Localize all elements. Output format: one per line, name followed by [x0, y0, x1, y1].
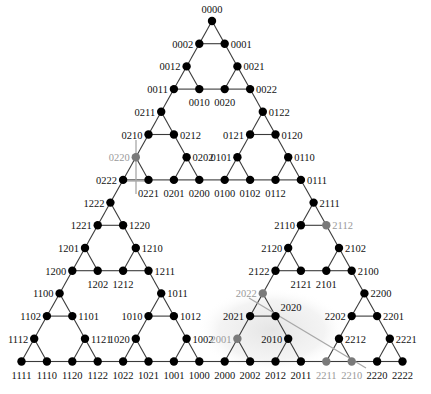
- graph-node-0210: [144, 130, 152, 138]
- graph-node-2121: [297, 267, 305, 275]
- graph-node-2022: [259, 289, 267, 297]
- graph-node-1022: [119, 357, 127, 365]
- node-label: 0101: [210, 152, 231, 163]
- node-label: 1022: [113, 370, 134, 381]
- graph-node-0100: [221, 176, 229, 184]
- node-label: 0002: [172, 39, 193, 50]
- node-label: 2121: [290, 279, 311, 290]
- graph-node-2112: [322, 221, 330, 229]
- graph-node-1112: [30, 335, 38, 343]
- node-label: 2201: [383, 311, 404, 322]
- graph-node-2010: [284, 335, 292, 343]
- node-label: 2100: [358, 266, 379, 277]
- node-label: 0001: [231, 39, 252, 50]
- node-label: 2022: [236, 288, 257, 299]
- node-label: 0011: [147, 84, 168, 95]
- graph-node-1120: [68, 357, 76, 365]
- node-label: 1101: [78, 311, 99, 322]
- graph-node-2002: [246, 357, 254, 365]
- node-label: 2220: [367, 370, 388, 381]
- graph-node-0220: [132, 153, 140, 161]
- node-label: 2222: [392, 370, 413, 381]
- node-label: 0021: [243, 61, 264, 72]
- graph-node-0111: [297, 176, 305, 184]
- graph-node-1101: [68, 312, 76, 320]
- graph-node-2111: [309, 198, 317, 206]
- node-label: 0010: [189, 97, 210, 108]
- node-label: 2221: [396, 334, 417, 345]
- graph-node-2211: [322, 357, 330, 365]
- graph-node-2222: [398, 357, 406, 365]
- graph-node-0101: [233, 153, 241, 161]
- graph-node-2200: [360, 289, 368, 297]
- node-label: 1012: [180, 311, 201, 322]
- graph-node-0011: [170, 85, 178, 93]
- node-label: 2111: [320, 198, 340, 209]
- node-label: 1211: [155, 266, 176, 277]
- node-label: 1021: [138, 370, 159, 381]
- node-label: 1010: [122, 311, 143, 322]
- graph-node-1122: [94, 357, 102, 365]
- node-label: 2211: [316, 370, 337, 381]
- node-label: 1020: [109, 334, 130, 345]
- graph-node-1221: [94, 221, 102, 229]
- graph-node-2201: [373, 312, 381, 320]
- graph-node-2020: [271, 312, 279, 320]
- graph-node-1110: [43, 357, 51, 365]
- graph-node-0201: [170, 176, 178, 184]
- graph-node-0000: [208, 17, 216, 25]
- node-label: 0102: [240, 188, 261, 199]
- graph-node-1100: [55, 289, 63, 297]
- graph-node-0121: [246, 130, 254, 138]
- graph-node-1102: [43, 312, 51, 320]
- node-label: 1212: [113, 279, 134, 290]
- graph-node-1212: [119, 267, 127, 275]
- graph-node-0021: [233, 62, 241, 70]
- graph-node-1202: [94, 267, 102, 275]
- node-label: 2012: [265, 370, 286, 381]
- node-label: 1112: [8, 334, 28, 345]
- node-label: 0212: [180, 130, 201, 141]
- graph-node-0001: [221, 40, 229, 48]
- graph-node-2001: [233, 335, 241, 343]
- node-label: 0112: [265, 188, 286, 199]
- node-label: 0022: [256, 84, 277, 95]
- node-label: 2020: [281, 302, 302, 313]
- graph-node-2102: [335, 244, 343, 252]
- node-label: 2002: [240, 370, 261, 381]
- node-label: 0200: [189, 188, 210, 199]
- node-label: 0222: [96, 175, 117, 186]
- graph-node-1010: [144, 312, 152, 320]
- node-label: 2122: [249, 266, 270, 277]
- graph-node-1011: [157, 289, 165, 297]
- graph-node-0102: [246, 176, 254, 184]
- node-label: 0120: [282, 130, 303, 141]
- graph-node-0211: [157, 108, 165, 116]
- graph-node-1121: [81, 335, 89, 343]
- graph-node-0112: [271, 176, 279, 184]
- node-label: 1100: [33, 288, 54, 299]
- node-label: 1201: [58, 243, 79, 254]
- node-label: 0110: [294, 152, 315, 163]
- graph-node-2021: [246, 312, 254, 320]
- node-label: 2101: [316, 279, 337, 290]
- graph-node-0002: [195, 40, 203, 48]
- node-label: 0210: [122, 130, 143, 141]
- graph-node-1002: [182, 335, 190, 343]
- graph-node-0202: [182, 153, 190, 161]
- node-label: 0122: [269, 107, 290, 118]
- graph-node-2011: [297, 357, 305, 365]
- node-label: 0121: [223, 130, 244, 141]
- graph-node-0222: [119, 176, 127, 184]
- graph-node-2100: [348, 267, 356, 275]
- node-label: 0020: [214, 97, 235, 108]
- graph-node-2221: [386, 335, 394, 343]
- graph-node-0110: [284, 153, 292, 161]
- node-label: 1210: [142, 243, 163, 254]
- graph-node-0010: [195, 85, 203, 93]
- graph-node-2220: [373, 357, 381, 365]
- node-label: 2202: [325, 311, 346, 322]
- node-label: 0211: [135, 107, 156, 118]
- node-label: 0221: [138, 188, 159, 199]
- graph-node-0212: [170, 130, 178, 138]
